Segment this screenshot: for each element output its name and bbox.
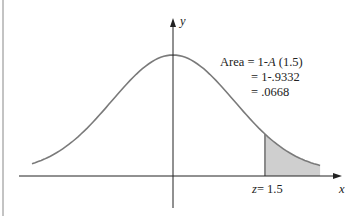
annotation-func: A: [268, 55, 276, 69]
x-axis-label: x: [339, 182, 345, 196]
annotation-eq-1: = 1-: [247, 55, 268, 69]
y-axis-label: y: [180, 14, 186, 28]
normal-curve-chart: [0, 0, 361, 216]
annotation-line-3: = .0668: [251, 85, 289, 99]
z-value: = 1.5: [257, 182, 283, 196]
annotation-line-2: = 1-.9332: [251, 70, 300, 84]
annotation-prefix: Area: [220, 55, 244, 69]
z-value-label: z= 1.5: [252, 182, 283, 196]
x-axis-arrow-icon: [333, 173, 342, 179]
annotation-arg: (1.5): [279, 55, 303, 69]
annotation-line-1: Area = 1-A (1.5): [220, 55, 303, 69]
y-axis-arrow-icon: [170, 18, 176, 27]
